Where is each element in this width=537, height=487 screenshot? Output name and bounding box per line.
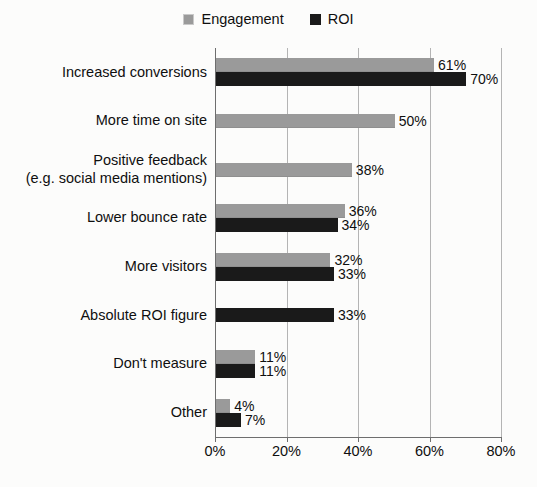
bar-wrapper: 32% — [216, 253, 537, 267]
bar-roi — [216, 72, 466, 86]
x-axis-tick-mark — [430, 437, 431, 442]
bar-wrapper: 11% — [216, 350, 537, 364]
category-label: More visitors — [2, 243, 207, 292]
bar-group: 11%11% — [216, 340, 537, 389]
chart-row: Absolute ROI figure33% — [0, 291, 537, 340]
bar-wrapper: 61% — [216, 58, 537, 72]
x-axis-tick-mark — [501, 437, 502, 442]
bar-value-label: 4% — [234, 399, 254, 413]
legend-label-engagement: Engagement — [201, 12, 283, 27]
bar-wrapper: 7% — [216, 413, 537, 427]
legend-label-roi: ROI — [328, 12, 354, 27]
x-axis-tick-mark — [287, 437, 288, 442]
category-label: More time on site — [2, 97, 207, 146]
bar-wrapper: 11% — [216, 364, 537, 378]
chart-legend: Engagement ROI — [0, 12, 537, 27]
x-axis-tick-label: 40% — [343, 444, 372, 459]
bar-engagement — [216, 204, 345, 218]
x-axis-tick-mark — [358, 437, 359, 442]
x-axis-tick-labels: 0%20%40%60%80% — [0, 444, 537, 468]
bar-value-label: 34% — [342, 218, 370, 232]
bar-group: 36%34% — [216, 194, 537, 243]
category-label-line: Don't measure — [113, 355, 207, 372]
category-label: Lower bounce rate — [2, 194, 207, 243]
category-label-line: (e.g. social media mentions) — [26, 170, 207, 187]
category-label: Increased conversions — [2, 48, 207, 97]
x-axis-tick-label: 20% — [272, 444, 301, 459]
bar-engagement — [216, 253, 330, 267]
bar-value-label: 33% — [338, 267, 366, 281]
chart-row: Don't measure11%11% — [0, 340, 537, 389]
category-label-line: Increased conversions — [62, 64, 207, 81]
chart-row: Increased conversions61%70% — [0, 48, 537, 97]
category-label: Absolute ROI figure — [2, 291, 207, 340]
legend-swatch-engagement-icon — [183, 14, 194, 25]
legend-item-engagement: Engagement — [183, 12, 283, 27]
category-label-line: Other — [171, 404, 207, 421]
bar-group: 33% — [216, 291, 537, 340]
bar-group: 38% — [216, 145, 537, 194]
bar-value-label: 38% — [356, 163, 384, 177]
x-axis-tick-label: 60% — [415, 444, 444, 459]
chart-rows: Increased conversions61%70%More time on … — [0, 48, 537, 437]
bar-wrapper: 33% — [216, 308, 537, 322]
category-label-line: Lower bounce rate — [87, 209, 207, 226]
bar-wrapper: 38% — [216, 163, 537, 177]
bar-wrapper: 70% — [216, 72, 537, 86]
x-axis-tick-label: 0% — [205, 444, 226, 459]
bar-group: 50% — [216, 97, 537, 146]
bar-wrapper: 34% — [216, 218, 537, 232]
category-label: Other — [2, 388, 207, 437]
legend-swatch-roi-icon — [310, 14, 321, 25]
bar-group: 32%33% — [216, 243, 537, 292]
category-label-line: Absolute ROI figure — [80, 307, 207, 324]
chart-row: Other4%7% — [0, 388, 537, 437]
category-label-line: Positive feedback — [93, 152, 207, 169]
bar-value-label: 50% — [399, 114, 427, 128]
bar-engagement — [216, 350, 255, 364]
category-label-line: More time on site — [96, 112, 207, 129]
bar-value-label: 32% — [334, 253, 362, 267]
x-axis-tick-label: 80% — [486, 444, 515, 459]
bar-group: 61%70% — [216, 48, 537, 97]
bar-value-label: 61% — [438, 58, 466, 72]
bar-roi — [216, 413, 241, 427]
bar-chart: Engagement ROI Increased conversions61%7… — [0, 0, 537, 487]
chart-row: Lower bounce rate36%34% — [0, 194, 537, 243]
category-label: Don't measure — [2, 340, 207, 389]
bar-value-label: 36% — [349, 204, 377, 218]
bar-value-label: 11% — [259, 364, 286, 378]
chart-row: Positive feedback(e.g. social media ment… — [0, 145, 537, 194]
bar-engagement — [216, 58, 434, 72]
bar-roi — [216, 267, 334, 281]
bar-engagement — [216, 399, 230, 413]
category-label: Positive feedback(e.g. social media ment… — [2, 145, 207, 194]
bar-roi — [216, 364, 255, 378]
bar-wrapper: 50% — [216, 114, 537, 128]
chart-row: More time on site50% — [0, 97, 537, 146]
chart-row: More visitors32%33% — [0, 243, 537, 292]
bar-roi — [216, 308, 334, 322]
bar-wrapper: 33% — [216, 267, 537, 281]
bar-engagement — [216, 114, 395, 128]
legend-item-roi: ROI — [310, 12, 354, 27]
x-axis-tick-mark — [215, 437, 216, 442]
bar-value-label: 11% — [259, 350, 286, 364]
bar-value-label: 33% — [338, 308, 366, 322]
bar-group: 4%7% — [216, 388, 537, 437]
category-label-line: More visitors — [125, 258, 207, 275]
bar-roi — [216, 218, 338, 232]
bar-engagement — [216, 163, 352, 177]
bar-wrapper: 4% — [216, 399, 537, 413]
bar-wrapper: 36% — [216, 204, 537, 218]
bar-value-label: 70% — [470, 72, 498, 86]
bar-value-label: 7% — [245, 413, 265, 427]
